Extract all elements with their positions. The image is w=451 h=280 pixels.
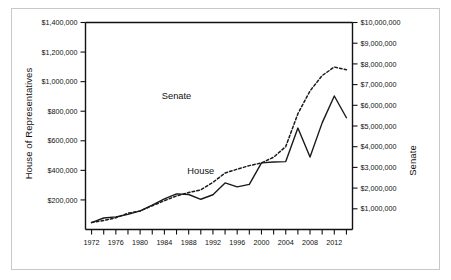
x-tick-label: 1992 xyxy=(205,238,221,247)
y-tick-label-left: $1,200,000 xyxy=(42,48,78,57)
x-tick-label: 1988 xyxy=(181,238,197,247)
chart-figure: House of Representatives Senate 19721976… xyxy=(0,0,451,280)
y-tick-label-right: $7,000,000 xyxy=(361,80,397,89)
y-tick-label-right: $8,000,000 xyxy=(361,60,397,69)
x-tick-label: 2008 xyxy=(302,238,318,247)
y-tick-label-left: $800,000 xyxy=(48,107,78,116)
y-tick-label-right: $6,000,000 xyxy=(361,101,397,110)
y-tick-label-left: $600,000 xyxy=(48,136,78,145)
chart-plot: 1972197619801984198819921996200020042008… xyxy=(0,0,451,280)
y-tick-label-right: $1,000,000 xyxy=(361,204,397,213)
y-tick-label-left: $1,400,000 xyxy=(42,18,78,27)
y-axis-left: $200,000$400,000$600,000$800,000$1,000,0… xyxy=(42,18,86,204)
y-tick-label-right: $4,000,000 xyxy=(361,142,397,151)
series-annotation-house: House xyxy=(187,166,214,176)
x-tick-label: 2000 xyxy=(253,238,269,247)
y-tick-label-left: $400,000 xyxy=(48,166,78,175)
y-tick-label-right: $5,000,000 xyxy=(361,122,397,131)
plot-frame xyxy=(86,23,353,230)
y-tick-label-left: $1,000,000 xyxy=(42,77,78,86)
series-annotation-senate: Senate xyxy=(162,91,191,101)
series-line-senate xyxy=(92,96,347,223)
y-tick-label-right: $2,000,000 xyxy=(361,184,397,193)
x-tick-label: 1972 xyxy=(84,238,100,247)
y-tick-label-left: $200,000 xyxy=(48,196,78,205)
series-annotations: SenateHouse xyxy=(162,91,214,176)
x-tick-label: 2012 xyxy=(326,238,342,247)
x-axis: 1972197619801984198819921996200020042008… xyxy=(84,230,347,248)
series-line-house xyxy=(92,67,347,222)
y-tick-label-right: $9,000,000 xyxy=(361,39,397,48)
y-tick-label-right: $10,000,000 xyxy=(361,18,401,27)
x-tick-label: 2004 xyxy=(278,238,294,247)
x-tick-label: 1976 xyxy=(108,238,124,247)
y-tick-label-right: $3,000,000 xyxy=(361,163,397,172)
x-tick-label: 1984 xyxy=(156,238,172,247)
x-tick-label: 1980 xyxy=(132,238,148,247)
data-series-group xyxy=(92,67,347,223)
y-axis-right: $1,000,000$2,000,000$3,000,000$4,000,000… xyxy=(353,18,401,213)
x-tick-label: 1996 xyxy=(229,238,245,247)
